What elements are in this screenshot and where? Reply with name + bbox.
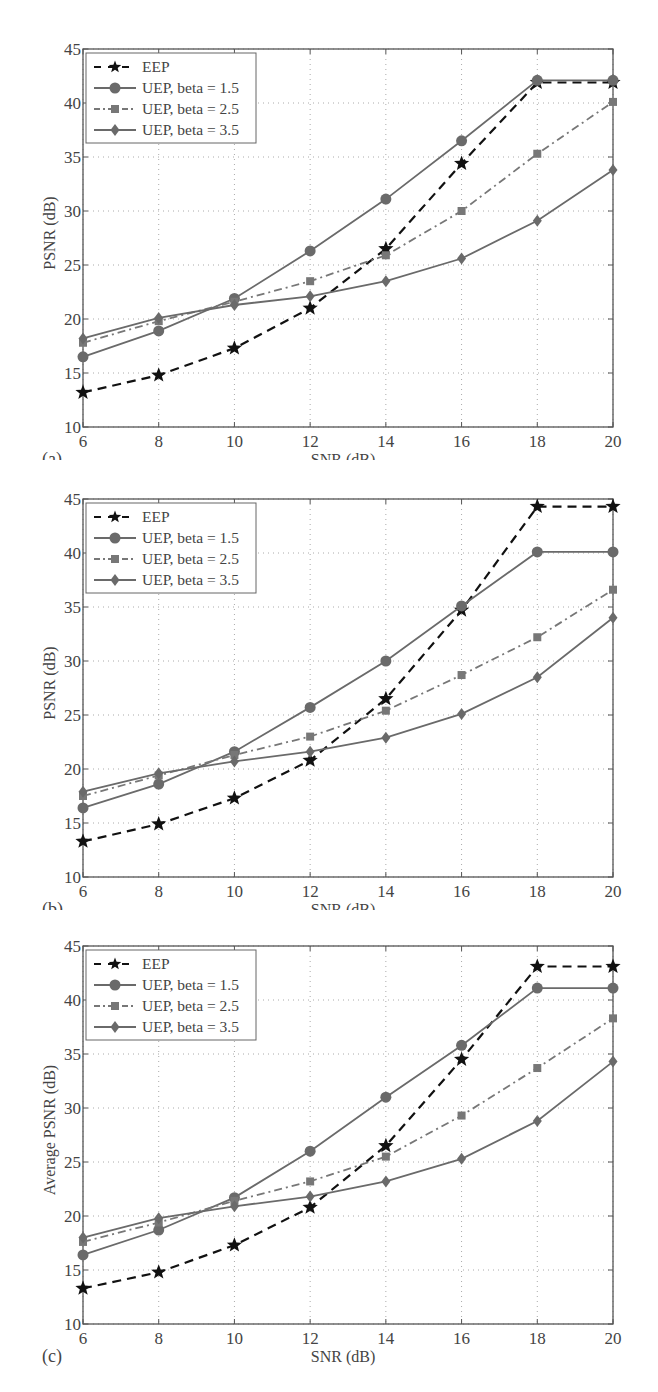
legend: EEPUEP, beta = 1.5UEP, beta = 2.5UEP, be… — [86, 950, 256, 1040]
y-tick-label: 10 — [64, 868, 81, 887]
series-2 — [79, 1014, 617, 1246]
circle-marker — [78, 1249, 89, 1260]
circle-marker — [305, 1146, 316, 1157]
y-tick-label: 20 — [64, 310, 81, 329]
circle-marker — [78, 802, 89, 813]
diamond-marker — [609, 1056, 618, 1068]
circle-marker — [110, 533, 121, 544]
x-tick-label: 20 — [605, 432, 622, 451]
legend-entry: UEP, beta = 1.5 — [142, 976, 239, 993]
square-marker — [111, 105, 119, 113]
star-marker — [530, 499, 545, 513]
diamond-marker — [609, 612, 618, 624]
diamond-marker — [381, 275, 390, 287]
diamond-marker — [457, 708, 466, 720]
chart-b-svg: 681012141618201015202530354045SNR (dB)PS… — [0, 450, 658, 910]
circle-marker — [110, 83, 121, 94]
square-marker — [533, 633, 541, 641]
x-tick-label: 18 — [529, 432, 546, 451]
y-tick-label: 20 — [64, 760, 81, 779]
y-tick-label: 15 — [64, 814, 81, 833]
y-tick-label: 35 — [64, 148, 81, 167]
series-2 — [79, 586, 617, 800]
legend-entry: EEP — [142, 955, 170, 972]
square-marker — [609, 1014, 617, 1022]
y-tick-label: 25 — [64, 1153, 81, 1172]
circle-marker — [456, 1040, 467, 1051]
square-marker — [382, 707, 390, 715]
chart-a-svg: 681012141618201015202530354045SNR (dB)PS… — [0, 0, 658, 460]
legend-entry: EEP — [142, 508, 170, 525]
square-marker — [306, 1177, 314, 1185]
square-marker — [458, 207, 466, 215]
y-axis-label: Average PSNR (dB) — [41, 1065, 59, 1195]
diamond-marker — [457, 253, 466, 265]
x-tick-label: 14 — [377, 1329, 395, 1348]
square-marker — [306, 277, 314, 285]
legend: EEPUEP, beta = 1.5UEP, beta = 2.5UEP, be… — [86, 503, 256, 593]
circle-marker — [78, 351, 89, 362]
circle-marker — [380, 1092, 391, 1103]
y-tick-label: 30 — [64, 1099, 81, 1118]
chart-c-svg: 681012141618201015202530354045SNR (dB)Av… — [0, 897, 658, 1392]
y-tick-label: 15 — [64, 364, 81, 383]
x-tick-label: 12 — [302, 1329, 319, 1348]
diamond-marker — [533, 1115, 542, 1127]
x-tick-label: 8 — [154, 1329, 163, 1348]
square-marker — [382, 1153, 390, 1161]
series-3 — [79, 1056, 618, 1244]
chart-panel-a: 681012141618201015202530354045SNR (dB)PS… — [0, 0, 658, 460]
circle-marker — [305, 245, 316, 256]
y-tick-label: 15 — [64, 1261, 81, 1280]
circle-marker — [153, 325, 164, 336]
star-marker — [530, 959, 545, 974]
y-tick-label: 40 — [64, 991, 81, 1010]
x-tick-label: 10 — [226, 432, 243, 451]
y-axis-label: PSNR (dB) — [41, 646, 59, 719]
y-tick-label: 10 — [64, 1315, 81, 1334]
circle-marker — [456, 600, 467, 611]
circle-marker — [380, 656, 391, 667]
square-marker — [458, 1112, 466, 1120]
diamond-marker — [306, 746, 315, 758]
diamond-marker — [306, 1191, 315, 1203]
circle-marker — [608, 983, 619, 994]
y-tick-label: 40 — [64, 94, 81, 113]
x-axis-label: SNR (dB) — [311, 1348, 375, 1366]
x-tick-label: 10 — [226, 1329, 243, 1348]
y-tick-label: 45 — [64, 490, 81, 509]
diamond-marker — [533, 671, 542, 683]
chart-panel-c: 681012141618201015202530354045SNR (dB)Av… — [0, 897, 658, 1357]
chart-panel-b: 681012141618201015202530354045SNR (dB)PS… — [0, 450, 658, 910]
y-axis-label: PSNR (dB) — [41, 196, 59, 269]
x-tick-label: 12 — [302, 432, 319, 451]
square-marker — [306, 733, 314, 741]
circle-marker — [380, 194, 391, 205]
star-marker — [227, 1237, 242, 1251]
y-tick-label: 35 — [64, 598, 81, 617]
square-marker — [609, 586, 617, 594]
circle-marker — [110, 980, 121, 991]
star-marker — [227, 790, 242, 804]
star-marker — [151, 816, 166, 831]
x-tick-label: 14 — [377, 432, 395, 451]
y-tick-label: 45 — [64, 937, 81, 956]
legend-entry: EEP — [142, 58, 170, 75]
y-tick-label: 25 — [64, 256, 81, 275]
y-tick-label: 40 — [64, 544, 81, 563]
square-marker — [609, 98, 617, 106]
square-marker — [533, 1064, 541, 1072]
square-marker — [458, 671, 466, 679]
diamond-marker — [609, 164, 618, 176]
y-tick-label: 30 — [64, 652, 81, 671]
y-tick-label: 10 — [64, 418, 81, 437]
circle-marker — [532, 546, 543, 557]
legend-entry: UEP, beta = 2.5 — [142, 100, 239, 117]
diamond-marker — [457, 1153, 466, 1165]
x-tick-label: 20 — [605, 1329, 622, 1348]
series-3 — [79, 164, 618, 344]
x-tick-label: 18 — [529, 1329, 546, 1348]
legend: EEPUEP, beta = 1.5UEP, beta = 2.5UEP, be… — [86, 53, 256, 143]
circle-marker — [456, 135, 467, 146]
y-tick-label: 25 — [64, 706, 81, 725]
